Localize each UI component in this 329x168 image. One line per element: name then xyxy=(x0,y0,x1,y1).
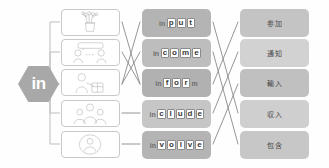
prefix-label: in xyxy=(31,75,45,94)
prefix-text-segment: in xyxy=(155,80,162,87)
letter-box: l xyxy=(177,140,185,150)
person-in-circle-icon xyxy=(62,132,119,157)
group-of-people-icon xyxy=(62,101,119,126)
word-card-income[interactable]: income xyxy=(142,39,211,67)
prefix-badge-in: in xyxy=(18,66,59,102)
letter-box: f xyxy=(163,78,171,88)
match-line-word3 xyxy=(213,22,238,84)
flowers-vase-icon xyxy=(62,10,119,35)
word-card-include[interactable]: include xyxy=(142,100,211,128)
letter-box: u xyxy=(176,109,185,119)
letter-box: d xyxy=(186,109,195,119)
meaning-label: 収入 xyxy=(267,111,282,118)
match-line-word1 xyxy=(213,22,238,113)
letter-box: c xyxy=(161,48,169,58)
match-line-pic1 xyxy=(122,22,140,84)
word-segments: input xyxy=(158,18,194,28)
letter-box: e xyxy=(196,109,204,119)
letter-box: p xyxy=(167,18,176,28)
meaning-label: 参加 xyxy=(267,20,282,27)
match-line-pic2 xyxy=(122,52,140,84)
word-segments: income xyxy=(152,48,200,58)
meaning-card-2[interactable]: 通知 xyxy=(240,39,309,67)
match-line-word4 xyxy=(213,52,238,113)
prefix-text-segment: in xyxy=(149,111,156,118)
vocabulary-matching-worksheet: in xyxy=(0,0,329,168)
letter-box: e xyxy=(195,140,203,150)
picture-card-group-of-people[interactable] xyxy=(61,100,120,127)
picture-card-person-with-box[interactable] xyxy=(61,69,120,96)
letter-box: m xyxy=(180,48,191,58)
meaning-label: 通知 xyxy=(267,50,282,57)
word-segments: involve xyxy=(149,140,203,150)
prefix-text-segment: in xyxy=(152,50,159,57)
match-line-pic3 xyxy=(122,22,140,84)
letter-box: v xyxy=(186,140,194,150)
letter-box: e xyxy=(192,48,200,58)
meaning-label: 包含 xyxy=(267,142,282,149)
match-line-word2 xyxy=(213,52,238,144)
word-segments: include xyxy=(149,109,204,119)
word-card-involve[interactable]: involve xyxy=(142,131,211,159)
letter-box: v xyxy=(157,140,165,150)
letter-box: l xyxy=(167,109,175,119)
match-line-pic4 xyxy=(122,52,140,84)
letter-box: c xyxy=(157,109,165,119)
word-card-inform[interactable]: inform xyxy=(142,69,211,97)
letter-box: t xyxy=(187,18,195,28)
meaning-card-4[interactable]: 収入 xyxy=(240,100,309,128)
match-line-word5 xyxy=(213,84,238,144)
meaning-label: 輸入 xyxy=(267,80,282,87)
prefix-text-segment: in xyxy=(149,142,156,149)
word-card-input[interactable]: input xyxy=(142,9,211,37)
letter-box: o xyxy=(172,78,181,88)
person-with-box-icon xyxy=(62,70,119,95)
two-people-talking-icon xyxy=(62,40,119,65)
meaning-card-3[interactable]: 輸入 xyxy=(240,69,309,97)
picture-card-person-in-circle[interactable] xyxy=(61,131,120,158)
letter-box: o xyxy=(170,48,179,58)
meaning-card-5[interactable]: 包含 xyxy=(240,131,309,159)
prefix-text-segment: m xyxy=(191,80,198,87)
picture-card-flowers-vase[interactable] xyxy=(61,9,120,36)
letter-box: u xyxy=(177,18,186,28)
letter-box: r xyxy=(182,78,190,88)
letter-box: o xyxy=(167,140,176,150)
meaning-card-1[interactable]: 参加 xyxy=(240,9,309,37)
prefix-text-segment: in xyxy=(158,20,165,27)
word-segments: inform xyxy=(155,78,198,88)
picture-card-two-people-talking[interactable] xyxy=(61,39,120,66)
